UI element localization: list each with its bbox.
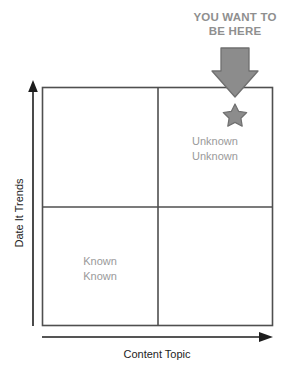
arrow-up-icon: [28, 80, 38, 92]
diagram-canvas: [0, 0, 295, 378]
quadrant-diagram: YOU WANT TO BE HERE Unknown Unknown Know…: [0, 0, 295, 378]
quadrant-label-bottom-left: Known Known: [50, 254, 150, 284]
callout-heading: YOU WANT TO BE HERE: [152, 10, 295, 38]
y-axis-label: Date It Trends: [13, 153, 25, 273]
quadrant-label-line-2: Unknown: [165, 149, 265, 164]
x-axis-label: Content Topic: [97, 348, 217, 360]
arrow-right-icon: [259, 332, 273, 342]
quadrant-label-line-2: Known: [50, 269, 150, 284]
quadrant-label-line-1: Known: [50, 254, 150, 269]
quadrant-label-line-1: Unknown: [165, 134, 265, 149]
quadrant-label-top-right: Unknown Unknown: [165, 134, 265, 164]
callout-line-2: BE HERE: [152, 24, 295, 38]
callout-line-1: YOU WANT TO: [152, 10, 295, 24]
